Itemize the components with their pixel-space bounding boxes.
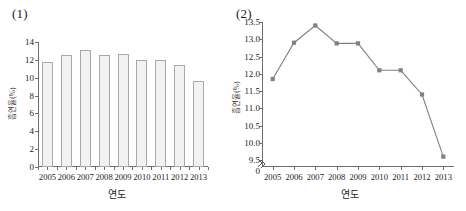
chart-1-y-tickmark: [35, 131, 38, 132]
chart-2-y-tickmark: [259, 108, 262, 109]
chart-1-x-minor-tickmark: [38, 167, 39, 170]
chart-2-data-point: [420, 92, 424, 96]
chart-2-y-tickmark: [259, 57, 262, 58]
chart-1-bar: [99, 55, 110, 168]
chart-1-x-minor-tickmark: [170, 167, 171, 170]
chart-1-y-tickmark: [35, 149, 38, 150]
chart-1-x-tick-label: 2008: [96, 172, 113, 182]
chart-2-x-tick-label: 2010: [371, 172, 388, 182]
chart-2-x-tickmark: [337, 167, 338, 170]
chart-panel-1: (1) 흡연율(%) 02468101214 20052006200720082…: [0, 0, 233, 211]
chart-2-x-tick-label: 2012: [413, 172, 430, 182]
chart-2-data-point: [377, 68, 381, 72]
chart-1-x-ticks: 200520062007200820092010201120122013: [38, 170, 208, 186]
chart-2-x-tick-label: 2013: [435, 172, 452, 182]
chart-1-y-tick-label: 2: [30, 144, 35, 154]
chart-1-x-tickmark: [123, 167, 124, 170]
chart-1-y-tick-label: 4: [30, 126, 35, 136]
chart-1-x-tickmark: [104, 167, 105, 170]
chart-1-y-tick-label: 0: [30, 162, 35, 172]
chart-2-plot-area: [262, 22, 454, 167]
chart-1-plot-area: [38, 42, 208, 167]
chart-2-axis-break-icon: [255, 156, 271, 172]
panel-1-tag: (1): [12, 6, 28, 22]
chart-1-x-tick-label: 2007: [77, 172, 94, 182]
chart-2-data-point: [399, 68, 403, 72]
chart-2-data-point: [356, 41, 360, 45]
chart-1-bar: [193, 81, 204, 167]
chart-1-bar: [136, 60, 147, 167]
chart-2-y-tickmark: [259, 74, 262, 75]
chart-2-x-tick-label: 2007: [307, 172, 324, 182]
chart-1-x-tickmark: [66, 167, 67, 170]
chart-2-x-tickmark: [401, 167, 402, 170]
chart-2-x-tick-label: 2008: [328, 172, 345, 182]
chart-1-bar: [155, 60, 166, 167]
chart-1-bar: [174, 65, 185, 167]
chart-2-x-tick-label: 2006: [285, 172, 302, 182]
chart-1-bar: [118, 54, 129, 167]
chart-1-x-tick-label: 2013: [190, 172, 207, 182]
chart-2-y-ticks: 09.510.010.511.011.512.012.513.013.5: [228, 22, 260, 167]
chart-2-data-point: [313, 23, 317, 27]
chart-1-x-tickmark: [180, 167, 181, 170]
chart-1-x-minor-tickmark: [189, 167, 190, 170]
chart-1-y-tick-label: 8: [30, 91, 35, 101]
chart-2-x-tickmark: [273, 167, 274, 170]
chart-2-data-point: [292, 41, 296, 45]
chart-1-x-tickmark: [199, 167, 200, 170]
chart-1-y-tick-label: 12: [25, 55, 34, 65]
chart-2-y-tick-label: 12.5: [244, 52, 260, 62]
chart-1-y-axis-line: [38, 42, 39, 167]
chart-1-x-tick-label: 2005: [39, 172, 56, 182]
chart-1-y-tickmark: [35, 96, 38, 97]
chart-1-x-tickmark: [85, 167, 86, 170]
chart-1-x-tick-label: 2009: [114, 172, 131, 182]
chart-2-y-tickmark: [259, 143, 262, 144]
chart-1-x-minor-tickmark: [208, 167, 209, 170]
chart-1-x-tickmark: [161, 167, 162, 170]
chart-2-data-point: [271, 77, 275, 81]
chart-2-y-tick-label: 11.5: [245, 86, 260, 96]
chart-2-y-tickmark: [259, 22, 262, 23]
chart-1-y-tickmark: [35, 78, 38, 79]
chart-1-x-minor-tickmark: [57, 167, 58, 170]
chart-2-x-tickmark: [358, 167, 359, 170]
chart-1-x-tick-label: 2011: [152, 172, 169, 182]
chart-1-bar: [61, 55, 72, 168]
chart-2-x-tickmark: [315, 167, 316, 170]
chart-1-x-tick-label: 2010: [133, 172, 150, 182]
chart-2-y-tick-label: 10.0: [244, 138, 260, 148]
chart-2-x-tick-label: 2009: [349, 172, 366, 182]
chart-2-x-tickmark: [294, 167, 295, 170]
chart-1-y-tick-label: 14: [25, 37, 34, 47]
chart-2-line-series: [262, 22, 454, 167]
chart-2-x-axis-title: 연도: [233, 186, 466, 201]
chart-1-x-tick-label: 2012: [171, 172, 188, 182]
chart-2-y-tick-label: 11.0: [245, 103, 260, 113]
chart-1-x-minor-tickmark: [114, 167, 115, 170]
chart-2-y-tick-label: 12.0: [244, 69, 260, 79]
chart-1-y-ticks: 02468101214: [0, 42, 34, 167]
chart-1-x-tickmark: [47, 167, 48, 170]
chart-2-y-tickmark: [259, 91, 262, 92]
chart-2-data-point: [441, 155, 445, 159]
chart-1-bar: [80, 50, 91, 167]
chart-2-data-point: [335, 41, 339, 45]
chart-2-x-tickmark: [422, 167, 423, 170]
chart-1-x-minor-tickmark: [95, 167, 96, 170]
chart-1-y-tickmark: [35, 60, 38, 61]
chart-2-y-tick-label: 13.0: [244, 34, 260, 44]
chart-2-y-tickmark: [259, 39, 262, 40]
chart-1-x-minor-tickmark: [132, 167, 133, 170]
chart-1-x-tick-label: 2006: [58, 172, 75, 182]
chart-2-x-tick-label: 2011: [392, 172, 409, 182]
chart-1-y-tickmark: [35, 113, 38, 114]
figure-container: (1) 흡연율(%) 02468101214 20052006200720082…: [0, 0, 466, 211]
chart-2-x-ticks: 200520062007200820092010201120122013: [262, 170, 454, 186]
chart-1-y-tickmark: [35, 42, 38, 43]
chart-1-y-tick-label: 6: [30, 108, 35, 118]
chart-2-x-tickmark: [379, 167, 380, 170]
chart-2-y-tickmark: [259, 126, 262, 127]
chart-2-y-tick-label: 13.5: [244, 17, 260, 27]
